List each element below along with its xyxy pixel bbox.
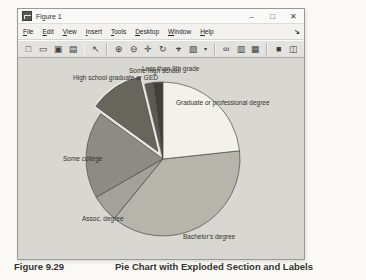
label-less-than-9th-grade: Less than 9th grade [142, 65, 199, 72]
dock-figure-icon[interactable]: ↘ [294, 28, 300, 36]
hide-plot-tools-icon[interactable]: ■ [272, 42, 285, 56]
page-background: { "window": { "title": "Figure 1", "cont… [0, 0, 366, 280]
new-figure-icon[interactable]: □ [22, 42, 35, 56]
title-bar[interactable]: Figure 1 –□✕ [18, 9, 304, 24]
menu-edit[interactable]: Edit [43, 28, 54, 35]
label-graduate-professional: Graduate or professional degree [176, 99, 270, 106]
figure-window: Figure 1 –□✕ FileEditViewInsertToolsDesk… [17, 8, 305, 260]
pan-icon[interactable]: ✛ [142, 42, 155, 56]
insert-legend-icon[interactable]: ▦ [249, 42, 262, 56]
label-some-college: Some college [63, 155, 102, 162]
menu-bar: FileEditViewInsertToolsDesktopWindowHelp… [18, 24, 304, 40]
menu-window[interactable]: Window [168, 28, 191, 35]
toolbar-separator [214, 43, 216, 55]
window-controls: –□✕ [241, 9, 304, 23]
zoom-in-icon[interactable]: ⊕ [112, 42, 125, 56]
toolbar-separator [84, 43, 86, 55]
label-high-school-grad: High school graduate or GED [73, 74, 158, 81]
menu-help[interactable]: Help [200, 28, 213, 35]
brush-data-icon[interactable]: ▨ [187, 42, 200, 56]
menu-tools[interactable]: Tools [111, 28, 126, 35]
figure-window-icon [22, 11, 32, 21]
menu-insert[interactable]: Insert [86, 28, 102, 35]
brush-dropdown-icon[interactable]: ▾ [201, 42, 209, 56]
print-figure-icon[interactable]: ▤ [67, 42, 80, 56]
save-figure-icon[interactable]: ▣ [52, 42, 65, 56]
menu-file[interactable]: File [23, 28, 34, 35]
menu-desktop[interactable]: Desktop [135, 28, 159, 35]
toolbar: □▭▣▤↖⊕⊖✛↻⌖▨▾∞▥▦■◫ [18, 40, 304, 58]
open-file-icon[interactable]: ▭ [37, 42, 50, 56]
maximize-button[interactable]: □ [262, 9, 283, 23]
zoom-out-icon[interactable]: ⊖ [127, 42, 140, 56]
figure-canvas: Some high schoolLess than 9th gradeHigh … [18, 58, 304, 259]
pie-slice-6 [163, 82, 240, 159]
insert-colorbar-icon[interactable]: ▥ [235, 42, 248, 56]
toolbar-separator [266, 43, 268, 55]
link-plot-icon[interactable]: ∞ [220, 42, 233, 56]
minimize-button[interactable]: – [241, 9, 262, 23]
rotate-3d-icon[interactable]: ↻ [157, 42, 170, 56]
data-cursor-icon[interactable]: ⌖ [172, 42, 185, 56]
label-bachelors-degree: Bachelor's degree [183, 233, 235, 240]
window-title: Figure 1 [36, 13, 62, 20]
edit-plot-icon[interactable]: ↖ [89, 42, 102, 56]
pie-chart [18, 58, 302, 259]
caption-figure-number: Figure 9.29 [14, 261, 64, 272]
menu-view[interactable]: View [63, 28, 77, 35]
show-plot-tools-dock-icon[interactable]: ◫ [287, 42, 300, 56]
close-button[interactable]: ✕ [283, 9, 304, 23]
toolbar-separator [106, 43, 108, 55]
label-assoc-degree: Assoc. degree [82, 215, 124, 222]
caption-title: Pie Chart with Exploded Section and Labe… [115, 261, 313, 272]
